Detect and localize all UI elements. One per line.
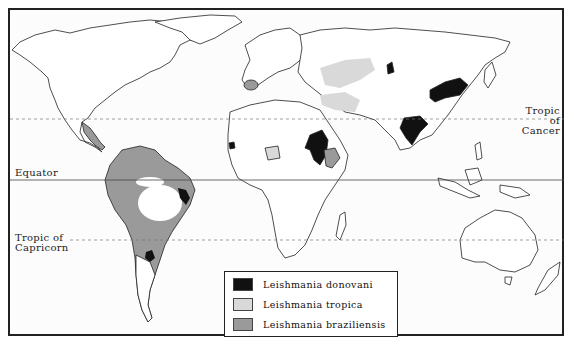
braziliensis-spain <box>244 80 258 90</box>
new-guinea <box>500 185 530 198</box>
philippines <box>475 142 482 160</box>
tropic-of-cancer-label: Tropic of Cancer <box>512 106 560 136</box>
madagascar <box>336 212 346 240</box>
tasmania <box>505 277 512 285</box>
japan <box>484 62 496 88</box>
south-america <box>105 146 195 322</box>
tropic-of-cancer-label-line1: Tropic of <box>512 106 560 126</box>
legend-item-braziliensis: Leishmania braziliensis <box>233 317 386 331</box>
tropica-swatch <box>233 298 253 311</box>
tropic-of-capricorn-label: Tropic of Capricorn <box>15 233 69 253</box>
amazon-north-unaffected <box>136 177 164 187</box>
tropica-west-africa <box>265 146 280 160</box>
tropic-of-capricorn-label-line2: Capricorn <box>15 243 69 253</box>
australia <box>460 210 538 272</box>
braziliensis-swatch <box>233 318 253 331</box>
amazon-unaffected <box>138 185 182 221</box>
legend-label-donovani: Leishmania donovani <box>263 279 373 290</box>
map-legend: Leishmania donovani Leishmania tropica L… <box>224 271 398 337</box>
europe <box>242 28 310 88</box>
donovani-swatch <box>233 278 253 291</box>
borneo <box>465 168 482 185</box>
legend-label-tropica: Leishmania tropica <box>263 299 363 310</box>
legend-item-donovani: Leishmania donovani <box>233 277 373 291</box>
new-zealand <box>535 262 560 295</box>
africa <box>228 100 348 258</box>
equator-label: Equator <box>15 168 58 178</box>
legend-item-tropica: Leishmania tropica <box>233 297 363 311</box>
legend-label-braziliensis: Leishmania braziliensis <box>263 319 386 330</box>
donovani-senegal <box>229 142 235 149</box>
tropic-of-cancer-label-line2: Cancer <box>512 126 560 136</box>
